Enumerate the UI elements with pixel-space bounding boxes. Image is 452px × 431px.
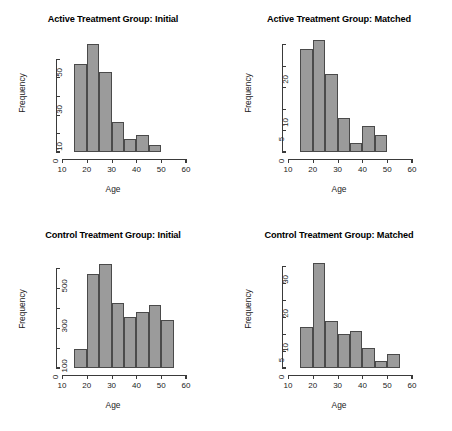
histogram-bar [325,321,337,369]
y-axis-title: Frequency [243,73,253,113]
y-axis-tick [282,368,286,369]
y-axis: 05102030 [282,266,283,368]
y-axis-tick [282,44,286,45]
histogram-figure: Active Treatment Group: Initial102030405… [0,0,452,431]
chart-title: Active Treatment Group: Initial [0,14,226,24]
histogram-bar [325,74,337,152]
x-axis-tick-label: 50 [383,381,392,390]
x-axis-tick-label: 10 [284,165,293,174]
histogram-bar [350,331,362,368]
x-axis-tick-label: 60 [182,381,191,390]
histogram-bar [136,312,148,368]
y-axis-tick [282,300,286,301]
y-axis-tick-label: 300 [60,319,69,332]
x-axis-tick-label: 30 [107,165,116,174]
x-axis: 102030405060 [288,159,412,160]
x-axis: 102030405060 [62,375,186,376]
plot-area [62,256,186,368]
x-axis-tick-label: 50 [383,165,392,174]
histogram-bar [313,40,325,152]
y-axis-tick-label: 50 [55,68,64,77]
y-axis-tick-label: 0 [277,159,286,163]
x-axis-tick [112,375,113,379]
x-axis-tick [288,375,289,379]
y-axis-tick-label: 30 [281,275,290,284]
x-axis-tick [186,159,187,163]
y-axis-tick-label: 30 [55,105,64,114]
y-axis: 0103050 [56,59,57,152]
y-axis-tick-label: 100 [60,359,69,372]
y-axis-title: Frequency [243,289,253,329]
chart-title: Control Treatment Group: Matched [226,230,452,240]
y-axis-tick-label: 0 [51,159,60,163]
chart-title: Control Treatment Group: Initial [0,230,226,240]
x-axis-tick [87,375,88,379]
x-axis: 102030405060 [288,375,412,376]
y-axis-tick-label: 5 [277,358,286,362]
x-axis-title: Age [0,184,226,194]
x-axis-tick-label: 10 [58,165,67,174]
x-axis-tick-label: 20 [82,165,91,174]
x-axis-tick [362,159,363,163]
y-axis-title: Frequency [17,73,27,113]
y-axis-tick [56,308,60,309]
x-axis-tick-label: 60 [182,165,191,174]
histogram-bar [387,354,399,368]
x-axis-tick [112,159,113,163]
histogram-bar [362,126,374,152]
histogram-bar [338,334,350,368]
figure-caption-strip [0,422,452,431]
histogram-bar [300,49,312,152]
y-axis-tick [282,130,286,131]
histogram-bar [300,327,312,368]
plot-area [62,40,186,152]
y-axis-tick [282,87,286,88]
histogram-bar [87,274,99,368]
x-axis-tick-label: 40 [132,381,141,390]
x-axis-tick-label: 30 [333,381,342,390]
x-axis-tick [288,159,289,163]
x-axis-tick-label: 20 [308,165,317,174]
x-axis-tick-label: 40 [358,165,367,174]
x-axis-tick [338,375,339,379]
y-axis-tick [282,152,286,153]
x-axis-tick-label: 60 [408,381,417,390]
y-axis-tick [56,133,60,134]
y-axis-tick [282,266,286,267]
x-axis-tick [412,375,413,379]
y-axis-tick [56,59,60,60]
x-axis-tick [387,375,388,379]
y-axis-tick [56,77,60,78]
y-axis-tick [56,348,60,349]
plot-area [288,40,412,152]
y-axis-tick [282,109,286,110]
histogram-bar [136,135,148,152]
x-axis-tick [62,159,63,163]
chart-panel-top-left: Active Treatment Group: Initial102030405… [0,0,226,216]
x-axis-tick [62,375,63,379]
x-axis-title: Age [226,400,452,410]
y-axis-tick [56,268,60,269]
x-axis-tick [412,159,413,163]
x-axis-tick-label: 40 [358,381,367,390]
histogram-bar [362,348,374,368]
y-axis-tick-label: 500 [60,279,69,292]
x-axis-tick-label: 20 [308,381,317,390]
histogram-bar [112,122,124,152]
histogram-bar [149,145,161,152]
histogram-bar [74,64,86,152]
plot-area [288,256,412,368]
x-axis-tick [161,375,162,379]
y-axis-tick-label: 0 [51,375,60,379]
histogram-bar [124,139,136,152]
y-axis-tick-label: 0 [277,375,286,379]
histogram-bar [124,317,136,368]
histogram-bar [375,361,387,368]
x-axis-tick-label: 60 [408,165,417,174]
histogram-bar [112,303,124,368]
x-axis-tick [338,159,339,163]
histogram-bar [99,72,111,152]
x-axis-tick [313,375,314,379]
y-axis-tick-label: 10 [55,142,64,151]
x-axis-tick-label: 30 [333,165,342,174]
